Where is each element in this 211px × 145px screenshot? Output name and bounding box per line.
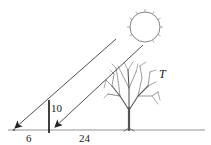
sun-icon <box>127 9 163 43</box>
diagram-svg <box>0 0 211 145</box>
tree-icon <box>104 62 160 131</box>
label-shadow-stick: 6 <box>26 133 32 144</box>
label-tree: T <box>159 68 166 80</box>
diagram-canvas: 10 6 24 T <box>0 0 211 145</box>
label-distance-stick-tree: 24 <box>79 133 90 144</box>
sun-ray-1 <box>15 39 116 128</box>
shadow-tip-point <box>13 129 15 131</box>
label-stick-height: 10 <box>51 103 62 114</box>
